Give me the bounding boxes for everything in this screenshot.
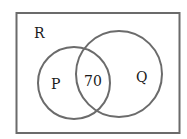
venn-svg: R P 70 Q <box>0 0 187 139</box>
venn-diagram: R P 70 Q <box>0 0 187 139</box>
intersection-value: 70 <box>84 73 102 89</box>
universe-label: R <box>34 25 45 41</box>
set-q-label: Q <box>136 69 147 85</box>
set-p-label: P <box>51 76 60 92</box>
